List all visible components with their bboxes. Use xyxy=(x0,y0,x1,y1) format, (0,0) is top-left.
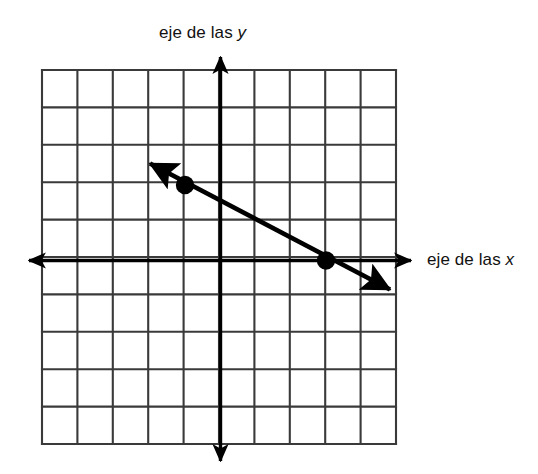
x-axis-label: eje de las x xyxy=(427,250,514,270)
axes xyxy=(29,57,411,461)
x-axis-label-variable: x xyxy=(506,250,515,269)
data-point-2 xyxy=(317,251,335,269)
coordinate-plane-plot xyxy=(0,0,538,474)
graph-figure: eje de las y eje de las x xyxy=(0,0,538,474)
y-axis-label-prefix: eje de las xyxy=(159,23,238,42)
y-axis-label: eje de las y xyxy=(159,23,246,43)
y-axis-label-variable: y xyxy=(238,23,247,42)
data-point-1 xyxy=(176,176,194,194)
x-axis-label-prefix: eje de las xyxy=(427,250,506,269)
